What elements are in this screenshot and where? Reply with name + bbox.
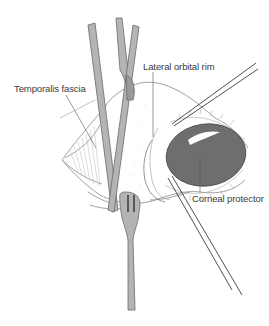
leader-temporalis (66, 95, 96, 148)
orbital-rim (144, 140, 165, 202)
illustration-svg (0, 0, 269, 326)
label-temporalis-fascia: Temporalis fascia (14, 83, 86, 94)
label-corneal-protector: Corneal protector (192, 193, 264, 204)
forceps-lower (120, 192, 140, 310)
surgical-illustration: Temporalis fascia Lateral orbital rim Co… (0, 0, 269, 326)
label-lateral-orbital-rim: Lateral orbital rim (143, 61, 215, 72)
forceps-upper (88, 18, 139, 212)
corneal-protector-shape (162, 119, 250, 192)
